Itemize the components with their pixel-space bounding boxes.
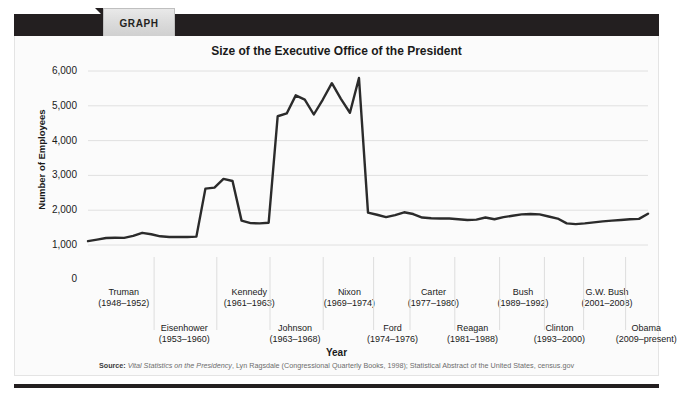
y-axis-tick-label: 1,000 <box>29 239 77 250</box>
graph-tab: GRAPH <box>103 8 175 38</box>
y-axis-zero-label: 0 <box>29 273 77 284</box>
source-label: Source: <box>99 361 126 370</box>
term-years: (1953–1960) <box>141 334 227 345</box>
y-axis-tick-label: 3,000 <box>29 169 77 180</box>
term-president-name: Nixon <box>306 287 392 298</box>
y-axis-title: Number of Employees <box>36 100 47 220</box>
term-president-name: Truman <box>81 287 167 298</box>
x-axis-term-label: Eisenhower(1953–1960) <box>141 323 227 345</box>
term-president-name: G.W. Bush <box>564 287 650 298</box>
term-years: (1974–1976) <box>350 334 436 345</box>
term-years: (1977–1980) <box>390 298 476 309</box>
x-axis-term-label: Nixon(1969–1974) <box>306 287 392 309</box>
source-citation: Source: Vital Statistics on the Presiden… <box>0 361 673 370</box>
term-years: (1948–1952) <box>81 298 167 309</box>
term-president-name: Carter <box>390 287 476 298</box>
x-axis-term-label: Reagan(1981–1988) <box>430 323 516 345</box>
term-years: (2009–present) <box>603 334 681 345</box>
bottom-rule <box>14 384 659 388</box>
term-years: (1969–1974) <box>306 298 392 309</box>
term-president-name: Obama <box>603 323 681 334</box>
x-axis-term-label: Carter(1977–1980) <box>390 287 476 309</box>
term-president-name: Ford <box>350 323 436 334</box>
x-axis-term-label: Clinton(1993–2000) <box>516 323 602 345</box>
source-title: Vital Statistics on the Presidency <box>128 361 232 370</box>
term-years: (1981–1988) <box>430 334 516 345</box>
x-axis-title: Year <box>0 347 673 358</box>
x-axis-term-label: G.W. Bush(2001–2008) <box>564 287 650 309</box>
chart-panel: Size of the Executive Office of the Pres… <box>14 36 659 376</box>
term-years: (1961–1963) <box>206 298 292 309</box>
source-rest: , Lyn Ragsdale (Congressional Quarterly … <box>232 361 574 370</box>
term-president-name: Clinton <box>516 323 602 334</box>
y-axis-tick-label: 2,000 <box>29 204 77 215</box>
term-years: (1963–1968) <box>252 334 338 345</box>
y-axis-tick-label: 5,000 <box>29 100 77 111</box>
term-president-name: Eisenhower <box>141 323 227 334</box>
y-axis-tick-label: 6,000 <box>29 65 77 76</box>
x-axis-term-label: Ford(1974–1976) <box>350 323 436 345</box>
term-president-name: Bush <box>480 287 566 298</box>
x-axis-term-label: Kennedy(1961–1963) <box>206 287 292 309</box>
term-years: (2001–2008) <box>564 298 650 309</box>
term-president-name: Reagan <box>430 323 516 334</box>
x-axis-term-label: Johnson(1963–1968) <box>252 323 338 345</box>
y-axis-tick-label: 4,000 <box>29 135 77 146</box>
term-years: (1993–2000) <box>516 334 602 345</box>
term-president-name: Kennedy <box>206 287 292 298</box>
x-axis-term-label: Bush(1989–1992) <box>480 287 566 309</box>
x-axis-term-label: Truman(1948–1952) <box>81 287 167 309</box>
chart-title: Size of the Executive Office of the Pres… <box>15 44 658 58</box>
graph-tab-label: GRAPH <box>119 18 158 29</box>
term-president-name: Johnson <box>252 323 338 334</box>
x-axis-term-label: Obama(2009–present) <box>603 323 681 345</box>
term-years: (1989–1992) <box>480 298 566 309</box>
